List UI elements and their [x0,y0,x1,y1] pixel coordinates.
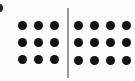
left-group-dot [34,21,43,30]
right-group-dot [90,38,99,47]
left-group-dot [18,21,27,30]
left-group-dot [34,38,43,47]
right-group-dot [74,21,83,30]
right-group-dot [106,21,115,30]
right-group-dot [90,21,99,30]
left-group-dot [50,38,59,47]
right-group-dot [74,38,83,47]
right-group-dot [122,56,131,65]
right-group-dot [122,38,131,47]
right-group-dot [122,21,131,30]
right-group-dot [74,56,83,65]
left-group-dot [34,55,43,64]
left-group-dot [18,38,27,47]
right-group-dot [106,38,115,47]
vertical-divider [67,8,69,78]
left-group-dot [50,21,59,30]
right-group-dot [90,56,99,65]
left-group-dot [50,55,59,64]
right-group-dot [106,56,115,65]
dot-array-diagram [0,0,135,81]
left-group-dot [18,55,27,64]
partial-dot-cropped [0,4,3,12]
